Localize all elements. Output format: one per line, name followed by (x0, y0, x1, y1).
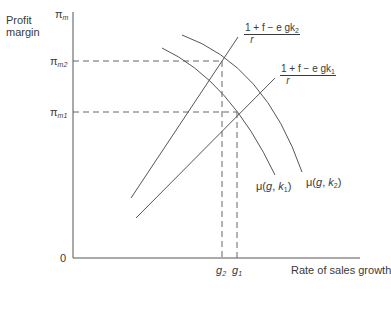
curve-mu-k2-label: μ(g, k2) (306, 176, 341, 192)
origin-label: 0 (60, 252, 66, 264)
y-tick-pi-m2: πm2 (50, 55, 67, 71)
curve-mu-k2 (182, 35, 302, 172)
line-k2-denominator: r (204, 35, 300, 45)
y-tick-pi-m1: πm1 (50, 106, 67, 122)
line-k1-denominator: r (240, 76, 336, 86)
k-sub: 1 (331, 68, 335, 75)
k-sub: 2 (295, 27, 299, 34)
numerator-text: 1 + f − e gk (281, 63, 331, 74)
line-k1-label: 1 + f − e gk1 r (280, 63, 336, 86)
pi-sub: m1 (58, 112, 68, 119)
line-k2-label: 1 + f − e gk2 r (244, 22, 300, 45)
y-axis-title-line2: margin (6, 26, 40, 38)
line-k1 (136, 78, 275, 218)
close-paren: ) (338, 176, 342, 188)
pi-sub: m (63, 14, 69, 21)
x-tick-g1: g1 (232, 264, 242, 280)
y-axis-title: Profit margin (6, 14, 40, 38)
pi-symbol: π (55, 8, 63, 20)
curve-mu-k1-label: μ(g, k1) (256, 180, 291, 196)
numerator-text: 1 + f − e gk (245, 22, 295, 33)
close-paren: ) (288, 180, 292, 192)
y-axis-title-line1: Profit (6, 14, 40, 26)
x-axis-title: Rate of sales growth (291, 264, 391, 276)
g-sub: 1 (238, 270, 242, 277)
pi-sub: m2 (58, 61, 68, 68)
mu-prefix: μ( (256, 180, 266, 192)
pi-symbol: π (50, 55, 58, 67)
pi-symbol: π (50, 106, 58, 118)
mu-prefix: μ( (306, 176, 316, 188)
g-sub: 2 (222, 270, 226, 277)
y-axis-top-symbol: πm (55, 8, 68, 24)
x-tick-g2: g2 (216, 264, 226, 280)
